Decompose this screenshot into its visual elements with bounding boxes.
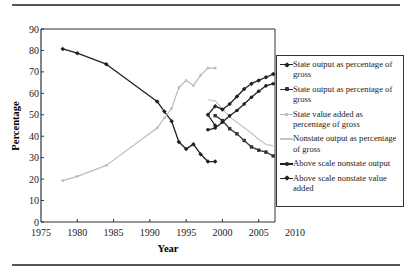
legend-swatch-icon	[280, 173, 293, 183]
data-point	[213, 159, 218, 164]
legend-item: Nonstate output as percentage of gross	[280, 133, 401, 154]
data-point	[271, 82, 275, 86]
data-point	[156, 127, 158, 129]
x-tick-label: 1985	[104, 227, 124, 238]
legend-swatch-icon	[280, 109, 293, 119]
chart-legend: State output as percentage of gross Stat…	[276, 55, 404, 207]
x-tick-label: 1995	[176, 227, 196, 238]
y-tick-label: 20	[29, 174, 39, 185]
data-point	[170, 107, 172, 109]
data-point	[264, 84, 268, 88]
data-point	[272, 154, 275, 157]
legend-swatch-icon	[280, 133, 293, 143]
data-point	[235, 109, 239, 113]
data-point	[178, 86, 180, 88]
data-point	[185, 79, 187, 81]
data-point	[250, 145, 253, 148]
x-tick-label: 2010	[285, 227, 305, 238]
y-tick-label: 60	[29, 88, 39, 99]
chart-series	[61, 47, 276, 182]
legend-item: State output as percentage of gross	[280, 59, 401, 80]
legend-item: State value added as percentage of gross	[280, 109, 401, 130]
x-tick-label: 2005	[249, 227, 269, 238]
legend-swatch-icon	[280, 84, 293, 94]
y-tick-label: 10	[29, 195, 39, 206]
data-point	[221, 120, 225, 124]
x-tick-label: 1990	[140, 227, 160, 238]
data-point	[228, 114, 232, 118]
data-point	[61, 47, 66, 52]
data-point	[199, 74, 201, 76]
x-axis-label: Year	[158, 243, 179, 254]
legend-swatch-icon	[280, 59, 293, 69]
series-2	[62, 67, 217, 182]
data-point	[228, 127, 231, 130]
y-tick-label: 30	[29, 152, 39, 163]
data-point	[206, 128, 210, 132]
series-0	[61, 47, 218, 164]
series-5	[206, 72, 276, 128]
legend-item: Above scale nonstate value added	[280, 173, 401, 194]
chart-axes: 0102030405060708090197519801985199019952…	[29, 24, 305, 239]
x-tick-label: 2000	[212, 227, 232, 238]
data-point	[192, 84, 194, 86]
data-point	[75, 51, 80, 56]
y-tick-label: 80	[29, 45, 39, 56]
data-point	[105, 164, 107, 166]
data-point	[243, 139, 246, 142]
data-point	[76, 175, 78, 177]
data-point	[250, 95, 254, 99]
data-point	[257, 89, 261, 93]
data-point	[242, 102, 246, 106]
series-1	[213, 114, 274, 158]
data-point	[264, 150, 267, 153]
data-point	[207, 67, 209, 69]
legend-item: Above scale nonstate output	[280, 158, 401, 168]
data-point	[213, 114, 216, 117]
legend-swatch-icon	[280, 158, 293, 168]
data-point	[62, 179, 64, 181]
legend-item: State output as percentage of gross	[280, 84, 401, 105]
data-point	[264, 75, 269, 80]
x-tick-label: 1980	[67, 227, 87, 238]
y-tick-label: 0	[34, 217, 39, 228]
y-tick-label: 40	[29, 131, 39, 142]
data-point	[214, 67, 216, 69]
y-tick-label: 70	[29, 66, 39, 77]
data-point	[163, 117, 165, 119]
data-point	[235, 132, 238, 135]
y-axis-label: Percentage	[10, 101, 21, 151]
data-point	[257, 148, 260, 151]
y-tick-label: 50	[29, 109, 39, 120]
y-tick-label: 90	[29, 24, 39, 35]
x-tick-label: 1975	[31, 227, 51, 238]
data-point	[256, 78, 261, 83]
